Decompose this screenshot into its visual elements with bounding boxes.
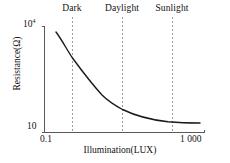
x-axis-tick-label-left: 0.1 xyxy=(40,134,52,145)
annotation-label-sunlight: Sunlight xyxy=(148,3,196,14)
x-axis-title: Illumination(LUX) xyxy=(60,145,180,156)
y-axis-tick-top-base: 10 xyxy=(23,19,33,29)
axis-lines xyxy=(44,26,205,133)
x-axis-tick-label-right: 1 000 xyxy=(180,134,201,145)
y-axis-tick-top-exponent: 4 xyxy=(33,18,36,24)
annotation-label-dark: Dark xyxy=(52,3,92,14)
annotation-guide-lines xyxy=(73,17,173,132)
resistance-curve xyxy=(56,32,200,123)
photoresistor-characteristic-figure: Dark Daylight Sunlight 104 10 0.1 1 000 … xyxy=(0,0,230,163)
y-axis-tick-label-bottom: 10 xyxy=(27,121,37,132)
annotation-label-daylight: Daylight xyxy=(98,3,146,14)
y-axis-tick-label-top: 104 xyxy=(23,19,36,30)
y-axis-title: Resistance(Ω) xyxy=(12,19,23,109)
